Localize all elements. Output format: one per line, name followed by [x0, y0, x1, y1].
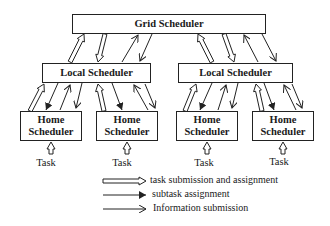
home-scheduler-label-line1: Home [114, 114, 141, 126]
task-assignment-arrow [96, 34, 107, 63]
task-input-arrow [47, 142, 55, 154]
home-scheduler-box-3: Home Scheduler [176, 111, 238, 141]
task-label: Task [102, 157, 142, 168]
information-submission-arrow [262, 34, 276, 61]
information-submission-arrow [122, 35, 138, 62]
home-scheduler-label-line1: Home [38, 114, 65, 126]
subtask-assignment-arrow [264, 83, 274, 110]
grid-scheduler-label: Grid Scheduler [134, 18, 203, 30]
home-scheduler-label-line1: Home [270, 114, 297, 126]
home-scheduler-label-line2: Scheduler [29, 126, 74, 138]
information-submission-arrow [140, 34, 152, 61]
task-submission-arrow [254, 84, 264, 111]
task-assignment-arrow [222, 33, 235, 62]
legend-label-task-submission: task submission and assignment [150, 174, 278, 185]
home-scheduler-box-4: Home Scheduler [252, 111, 314, 141]
subtask-assignment-arrow [200, 83, 212, 110]
local-scheduler-box-left: Local Scheduler [42, 63, 151, 83]
legend-label-subtask-assignment: subtask assignment [152, 188, 230, 199]
task-input-arrow [203, 142, 211, 154]
home-scheduler-label-line1: Home [194, 114, 221, 126]
information-submission-arrow [232, 83, 238, 108]
subtask-assignment-arrow [112, 83, 122, 110]
subtask-assignment-arrow [46, 83, 58, 110]
task-submission-arrow [96, 84, 106, 111]
task-submission-arrow [68, 34, 84, 63]
home-scheduler-label-line2: Scheduler [261, 126, 306, 138]
task-input-arrow [123, 142, 131, 154]
information-submission-arrow [60, 85, 70, 110]
home-scheduler-label-line2: Scheduler [105, 126, 150, 138]
information-submission-arrow [145, 84, 155, 108]
task-submission-arrow [183, 84, 197, 112]
task-label: Task [184, 157, 224, 168]
task-input-arrow [279, 142, 287, 154]
information-submission-arrow [218, 85, 226, 110]
information-submission-arrow [244, 35, 258, 62]
task-submission-arrow [198, 34, 214, 63]
task-label: Task [26, 157, 66, 168]
task-submission-arrow [28, 84, 44, 112]
local-scheduler-box-right: Local Scheduler [178, 63, 293, 83]
home-scheduler-box-1: Home Scheduler [20, 111, 82, 141]
information-submission-arrow [134, 85, 148, 110]
legend-label-information-submission: Information submission [153, 202, 248, 213]
information-submission-arrow [76, 83, 82, 108]
home-scheduler-box-2: Home Scheduler [96, 111, 158, 141]
local-scheduler-label: Local Scheduler [199, 67, 272, 79]
home-scheduler-label-line2: Scheduler [185, 126, 230, 138]
grid-scheduler-box: Grid Scheduler [72, 14, 266, 34]
task-label: Task [259, 156, 299, 167]
legend-hollow-arrow [103, 177, 146, 185]
local-scheduler-label: Local Scheduler [60, 67, 133, 79]
